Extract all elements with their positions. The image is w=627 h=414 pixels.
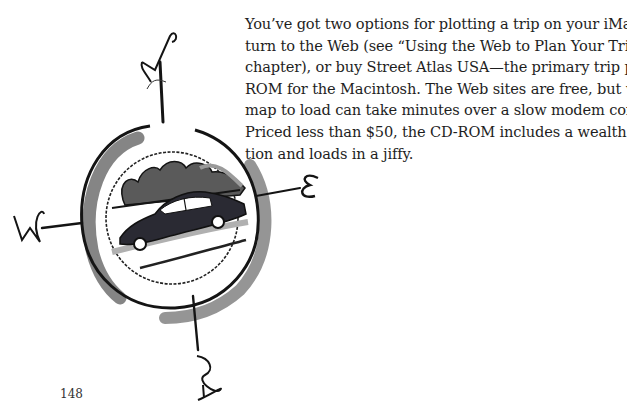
book-page: You’ve got two options for plotting a tr…: [0, 0, 627, 414]
paragraph-line: map to load can take minutes over a slow…: [245, 99, 615, 121]
paragraph-line: chapter), or buy Street Atlas USA—the pr…: [245, 56, 615, 78]
paragraph-line: Priced less than $50, the CD-ROM include…: [245, 121, 615, 143]
body-paragraph: You’ve got two options for plotting a tr…: [245, 13, 615, 164]
west-marker: [14, 212, 82, 242]
paragraph-line: turn to the Web (see “Using the Web to P…: [245, 35, 615, 57]
paragraph-line: You’ve got two options for plotting a tr…: [245, 13, 615, 35]
paragraph-line: tion and loads in a jiffy.: [245, 143, 615, 165]
north-marker: [142, 33, 177, 122]
page-number: 148: [60, 387, 83, 401]
paragraph-line: ROM for the Macintosh. The Web sites are…: [245, 78, 615, 100]
